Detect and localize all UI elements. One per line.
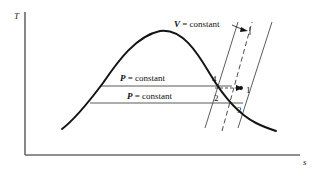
- ts-diagram-figure: T s V = constant: [0, 0, 317, 173]
- p-constant-upper-text: constant: [135, 73, 165, 83]
- p-constant-upper-label: P = constant: [120, 73, 166, 83]
- p-constant-lower-text: constant: [142, 91, 172, 101]
- axes-group: [25, 12, 300, 155]
- state-label-3: 3: [237, 105, 242, 115]
- p-constant-lower-label: P = constant: [127, 91, 173, 101]
- v-constant-label: V = constant: [174, 19, 220, 29]
- state-point-1-marker: [239, 86, 243, 90]
- x-axis-label: s: [303, 157, 307, 167]
- v-constant-text: constant: [190, 19, 220, 29]
- p-constant-lower-equals: =: [133, 91, 143, 101]
- state-labels-group: 4 1 2 3: [212, 74, 251, 115]
- y-axis-label: T: [14, 11, 20, 21]
- p-constant-upper-equals: =: [126, 73, 136, 83]
- ts-diagram-canvas: T s V = constant: [0, 0, 317, 173]
- state-label-2: 2: [214, 93, 219, 103]
- v-constant-leader-arrowhead: [240, 27, 248, 32]
- saturation-dome-curve: [62, 31, 276, 131]
- v-constant-equals: =: [180, 19, 190, 29]
- state-label-1: 1: [246, 85, 251, 95]
- isochore-right-line: [238, 22, 272, 128]
- v-constant-annotation-group: V = constant: [174, 19, 250, 35]
- state-label-4: 4: [212, 74, 217, 84]
